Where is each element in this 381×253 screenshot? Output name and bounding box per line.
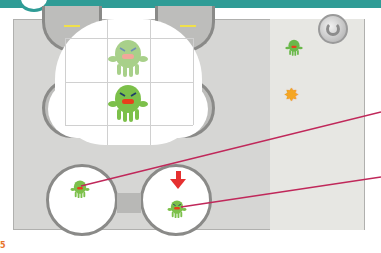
callout-lines xyxy=(0,0,381,253)
page-number: 5 xyxy=(0,241,6,250)
